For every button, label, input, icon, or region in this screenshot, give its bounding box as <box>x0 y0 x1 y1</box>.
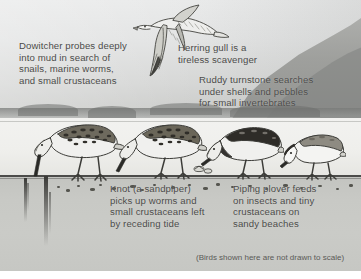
pebble <box>66 189 70 192</box>
mud-probe-mark <box>27 183 29 211</box>
caption-dowitcher: Dowitcher probes deeply into mud in sear… <box>19 40 179 86</box>
caption-knot: Knot (a sandpiper) picks up worms and sm… <box>110 183 240 229</box>
bottom-white-margin <box>0 271 361 279</box>
pebble <box>77 185 80 187</box>
mud-probe-mark <box>49 192 51 234</box>
pebble <box>57 186 60 188</box>
scale-disclaimer: (Birds shown here are not drawn to scale… <box>196 253 358 262</box>
caption-piping-plover: Piping plover feeds on insects and tiny … <box>233 183 361 229</box>
mud-probe-mark <box>44 176 48 246</box>
piping-plover-bird <box>268 124 346 182</box>
caption-herring-gull: Herring gull is a tireless scavenger <box>178 42 298 65</box>
caption-ruddy-turnstone: Ruddy turnstone searches under shells an… <box>199 74 359 109</box>
pebble <box>99 184 102 186</box>
pebble <box>90 188 95 191</box>
shorebird-illustration: Dowitcher probes deeply into mud in sear… <box>0 0 361 279</box>
